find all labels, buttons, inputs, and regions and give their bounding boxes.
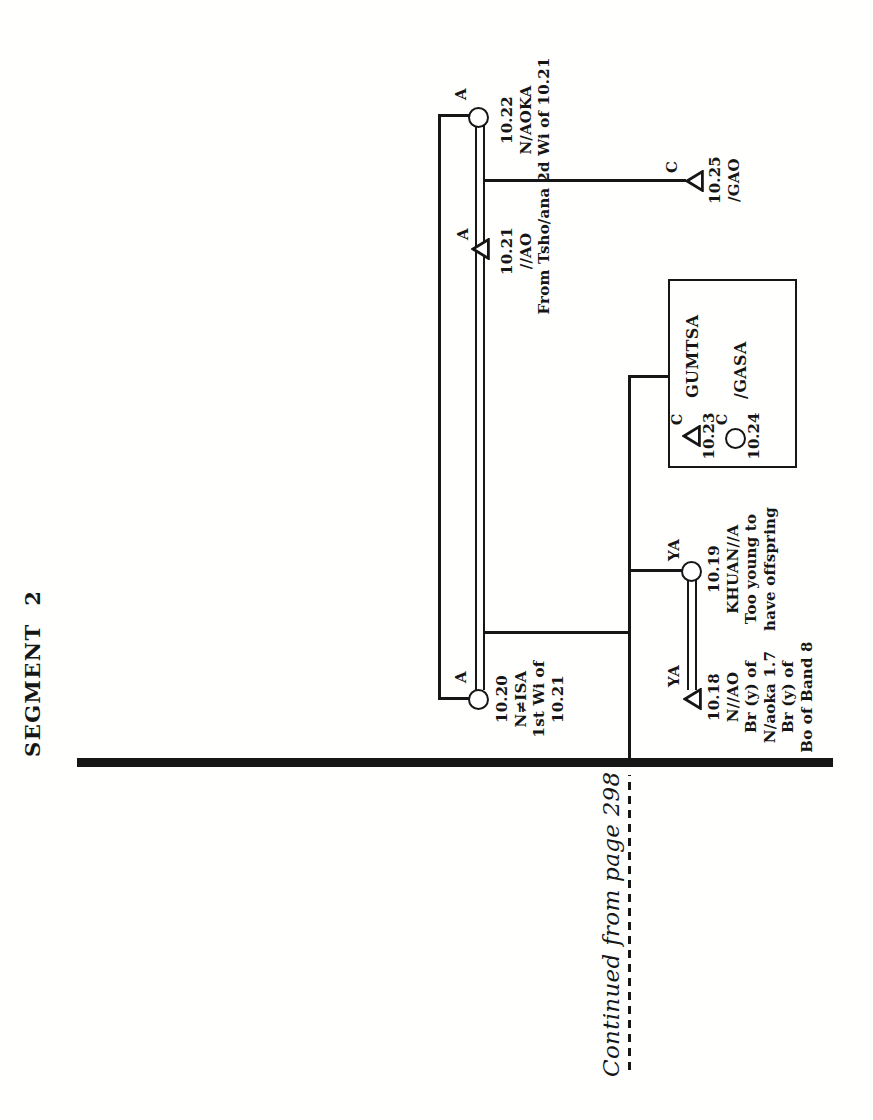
- person-id: 10.20: [493, 614, 512, 784]
- continuation-dashed-line: [628, 775, 631, 1070]
- person-label-10.20: 10.20 N≠ISA 1st Wi of 10.21: [493, 614, 567, 784]
- segment-title: SEGMENT 2: [20, 590, 45, 757]
- person-symbol-male-10.23: [682, 425, 701, 447]
- person-note: 10.21: [549, 614, 568, 784]
- person-symbol-female-10.24: [725, 428, 746, 449]
- person-label-10.22: 10.22 N/AOKA 2d Wi of 10.21: [498, 35, 554, 205]
- person-note: 2d Wi of 10.21: [535, 35, 554, 205]
- generation-label-10.20: A: [452, 671, 470, 683]
- person-note: have offspring: [761, 484, 780, 654]
- person-symbol-female-10.20: [468, 689, 489, 710]
- scanned-page: { "page": { "header": "SEGMENT 2", "cont…: [0, 0, 873, 1120]
- person-id: 10.19: [705, 484, 724, 654]
- generation-label-10.25: C: [663, 161, 681, 173]
- person-name: N/AOKA: [517, 35, 536, 205]
- person-id: 10.25: [706, 95, 725, 265]
- descent-line-household-box: [629, 375, 670, 378]
- person-id-10.23: 10.23: [700, 386, 718, 486]
- person-note: Too young to: [742, 484, 761, 654]
- person-symbol-male-10.21: [471, 238, 490, 260]
- descent-line-10.19: [629, 569, 683, 572]
- person-name: /GAO: [725, 95, 744, 265]
- person-symbol-male-10.18: [683, 688, 702, 710]
- person-label-10.25: 10.25 /GAO: [706, 95, 743, 265]
- person-symbol-female-10.22: [468, 107, 489, 128]
- person-label-10.19: 10.19 KHUAN//A Too young to have offspri…: [705, 484, 779, 654]
- person-name-10.23: GUMTSA: [683, 314, 702, 398]
- person-name-10.24: /GASA: [731, 341, 750, 399]
- sibling-bracket-drop-left: [438, 697, 469, 700]
- sibling-bracket-drop-right: [438, 114, 469, 117]
- person-note: Br (y) of: [779, 612, 798, 782]
- person-name: N≠ISA: [512, 614, 531, 784]
- generation-label-10.22: A: [452, 88, 470, 100]
- person-symbol-female-10.19: [681, 561, 702, 582]
- marriage-bar-generation-a: [475, 125, 485, 690]
- person-note: 1st Wi of: [530, 614, 549, 784]
- continuation-note: Continued from page 298: [598, 772, 624, 1077]
- person-id: 10.22: [498, 35, 517, 205]
- person-note: Bo of Band 8: [798, 612, 817, 782]
- person-id-10.24: 10.24: [745, 386, 763, 486]
- sibling-bracket-line: [438, 114, 441, 700]
- generation-label-10.18: YA: [665, 665, 683, 687]
- kinship-chart-page: SEGMENT 2 Continued from page 298 A A A …: [0, 0, 873, 1120]
- person-symbol-male-10.25: [685, 170, 704, 192]
- person-name: KHUAN//A: [724, 484, 743, 654]
- generation-label-10.19: YA: [665, 539, 683, 561]
- generation-label-10.21: A: [454, 228, 472, 240]
- marriage-bar-generation-ya: [687, 580, 697, 690]
- generation-label-10.23: C: [669, 414, 685, 425]
